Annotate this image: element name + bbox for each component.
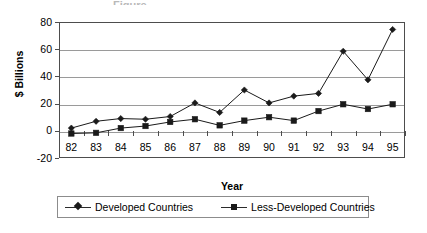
x-tick-label: 83 [83, 142, 109, 153]
plot-area [59, 22, 405, 158]
x-tick-label: 90 [256, 142, 282, 153]
y-tick-label: 20 [10, 98, 52, 109]
y-tick-mark [55, 158, 59, 159]
x-tick-mark [84, 131, 85, 136]
x-tick-mark [405, 131, 406, 136]
x-tick-mark [281, 131, 282, 136]
y-tick-label: 60 [10, 44, 52, 55]
gridline [60, 77, 404, 78]
x-tick-mark [108, 131, 109, 136]
legend-square-icon [221, 202, 247, 212]
legend-label: Developed Countries [95, 202, 193, 213]
x-tick-mark [331, 131, 332, 136]
x-tick-mark [257, 131, 258, 136]
x-tick-mark [306, 131, 307, 136]
y-tick-mark [55, 49, 59, 50]
x-tick-mark [380, 131, 381, 136]
chart-legend: Developed CountriesLess-Developed Countr… [57, 196, 369, 218]
y-tick-label: 0 [10, 125, 52, 136]
y-tick-label: 40 [10, 71, 52, 82]
x-tick-label: 92 [306, 142, 332, 153]
x-tick-mark [183, 131, 184, 136]
x-tick-mark [356, 131, 357, 136]
x-tick-label: 86 [157, 142, 183, 153]
y-tick-mark [55, 22, 59, 23]
x-tick-label: 85 [133, 142, 159, 153]
x-tick-mark [133, 131, 134, 136]
x-axis-title: Year [59, 180, 405, 192]
x-tick-label: 87 [182, 142, 208, 153]
x-tick-label: 82 [58, 142, 84, 153]
chart-container: Figure $ Billions 806040200-20 828384858… [0, 0, 427, 233]
y-tick-mark [55, 104, 59, 105]
x-tick-mark [207, 131, 208, 136]
gridline [60, 105, 404, 106]
x-tick-mark [158, 131, 159, 136]
x-tick-label: 88 [207, 142, 233, 153]
legend-item-developed-countries[interactable]: Developed Countries [65, 202, 193, 213]
legend-item-less-developed-countries[interactable]: Less-Developed Countries [221, 202, 375, 213]
x-tick-label: 93 [330, 142, 356, 153]
legend-diamond-icon [65, 202, 91, 212]
x-tick-label: 84 [108, 142, 134, 153]
y-tick-label: -20 [10, 153, 52, 164]
x-tick-label: 94 [355, 142, 381, 153]
legend-label: Less-Developed Countries [251, 202, 375, 213]
x-tick-label: 91 [281, 142, 307, 153]
gridline [60, 50, 404, 51]
chart-title-remnant: Figure [113, 0, 173, 5]
y-tick-mark [55, 76, 59, 77]
x-tick-label: 89 [231, 142, 257, 153]
y-tick-label: 80 [10, 17, 52, 28]
x-tick-mark [232, 131, 233, 136]
x-tick-mark [59, 131, 60, 136]
x-tick-label: 95 [380, 142, 406, 153]
